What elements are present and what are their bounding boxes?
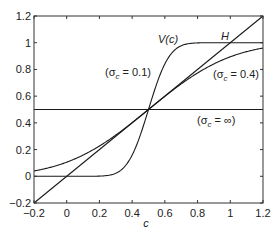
x-tick-label: 1.2 xyxy=(255,207,270,219)
x-tick-label: 0.6 xyxy=(157,207,172,219)
x-tick-label: 0.4 xyxy=(124,207,139,219)
sigma-inf-label: (σc = ∞) xyxy=(197,114,236,129)
h-line-label: H xyxy=(221,30,229,42)
x-tick-label: 1 xyxy=(227,207,233,219)
plot-curves xyxy=(34,16,263,203)
x-tick-label: 0 xyxy=(64,207,70,219)
y-tick-label: 0.2 xyxy=(16,144,31,156)
sigma-0.4-label: (σc = 0.4) xyxy=(213,68,259,83)
y-tick-label: 0.6 xyxy=(16,90,31,102)
y-tick-label: 1.2 xyxy=(16,10,31,22)
y-tick-label: 0.8 xyxy=(16,63,31,75)
x-axis-label: c xyxy=(143,217,149,229)
y-tick-label: −0.2 xyxy=(9,197,31,209)
x-tick-label: 0.2 xyxy=(92,207,107,219)
v-curve-label: V(c) xyxy=(158,33,179,45)
chart: −0.200.20.40.60.811.2−0.200.20.40.60.811… xyxy=(0,0,280,238)
y-tick-label: 0 xyxy=(25,170,31,182)
x-tick-label: 0.8 xyxy=(190,207,205,219)
sigma-0.1-label: (σc = 0.1) xyxy=(105,66,151,81)
y-tick-label: 0.4 xyxy=(16,117,31,129)
y-tick-label: 1 xyxy=(25,37,31,49)
